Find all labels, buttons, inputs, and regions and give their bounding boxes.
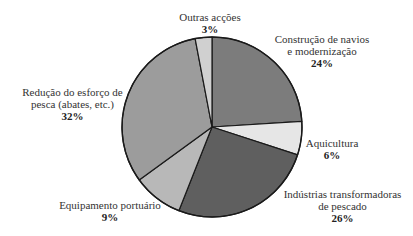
label-equipamento-portuario: Equipamento portuário 9% [55,199,165,223]
label-percent: 32% [15,110,130,122]
label-text: Outras acções [170,11,250,23]
label-text: Aquicultura [302,137,362,149]
label-text: Equipamento portuário [55,199,165,211]
label-text: Redução do esforço de [15,86,130,98]
label-text: Indústrias transformadoras [275,188,410,200]
label-industrias-transformadoras: Indústrias transformadoras de pescado 26… [275,188,410,224]
label-text: de pescado [275,200,410,212]
label-reducao-esforco-pesca: Redução do esforço de pesca (abates, etc… [15,86,130,122]
label-text: pesca (abates, etc.) [15,98,130,110]
label-percent: 26% [275,212,410,224]
label-percent: 6% [302,149,362,161]
label-construcao-navios: Construção de navios e modernização 24% [262,33,382,69]
label-percent: 9% [55,211,165,223]
label-outras-accoes: Outras acções 3% [170,11,250,35]
label-text: e modernização [262,45,382,57]
label-aquicultura: Aquicultura 6% [302,137,362,161]
label-text: Construção de navios [262,33,382,45]
label-percent: 3% [170,23,250,35]
label-percent: 24% [262,57,382,69]
